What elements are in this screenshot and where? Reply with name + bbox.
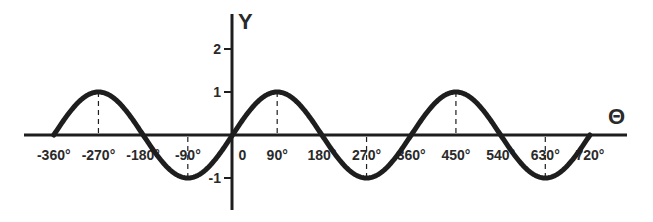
y-tick-label: 1 bbox=[213, 84, 221, 100]
x-tick-label: -360° bbox=[37, 147, 71, 163]
y-axis-title: Y bbox=[238, 9, 253, 34]
x-tick-label: 450° bbox=[441, 147, 470, 163]
x-tick-label: 0 bbox=[239, 147, 247, 163]
y-tick-label: 2 bbox=[213, 41, 221, 57]
x-tick-label: 270° bbox=[352, 147, 381, 163]
x-tick-label: -90° bbox=[175, 147, 201, 163]
sine-wave-chart: 21-1 -360°-270°-180°-90°090°180°270°360°… bbox=[0, 0, 653, 222]
x-tick-label: 90° bbox=[267, 147, 288, 163]
x-axis-title: Θ bbox=[608, 104, 625, 129]
x-tick-label: 630° bbox=[531, 147, 560, 163]
x-tick-label: -270° bbox=[82, 147, 116, 163]
y-tick-label: -1 bbox=[209, 170, 222, 186]
